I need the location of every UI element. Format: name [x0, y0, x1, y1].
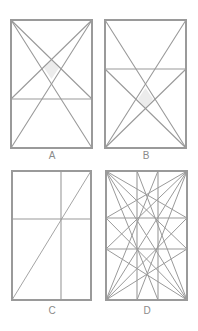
diagram-canvas	[0, 0, 198, 331]
panel-c-label: C	[42, 305, 62, 316]
panel-c	[12, 171, 91, 300]
panel-d-label: D	[137, 305, 157, 316]
panel-a	[11, 20, 92, 148]
panel-b	[105, 20, 186, 148]
panel-a-label: A	[42, 150, 62, 161]
panel-c-diagonal	[12, 171, 91, 300]
panel-b-label: B	[136, 150, 156, 161]
panel-b-shaded-region	[138, 88, 153, 108]
panel-d	[106, 171, 187, 300]
